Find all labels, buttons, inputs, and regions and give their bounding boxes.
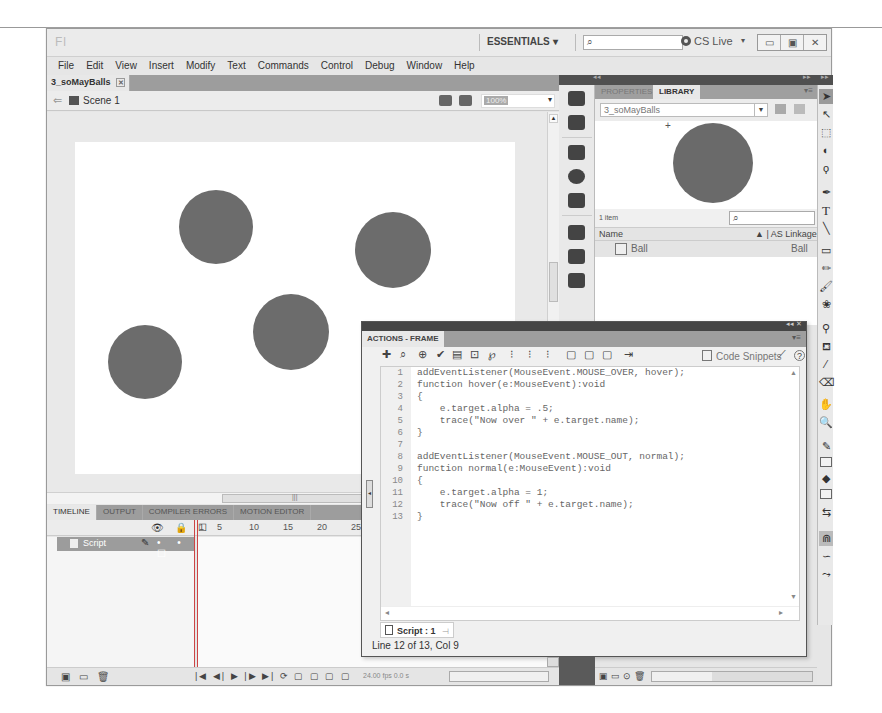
panel-horizontal-scrollbar[interactable] <box>651 671 813 682</box>
playback-controls[interactable]: |◀ ◀| ▶ |▶ ▶| ⟳ ▢ ▢ ▢ ▢ <box>195 671 352 681</box>
library-search-input[interactable]: ⌕ <box>729 211 815 225</box>
document-tab[interactable]: 3_soMayBalls ✕ <box>47 75 130 91</box>
deco-tool[interactable]: ❀ <box>819 297 833 312</box>
pencil-tool[interactable]: ✏ <box>819 261 833 276</box>
tab-library[interactable]: LIBRARY <box>653 85 700 99</box>
minimize-button[interactable]: ▭ <box>758 35 781 50</box>
text-tool[interactable]: T <box>819 203 833 218</box>
expand-icon[interactable]: ▸▸ <box>821 73 829 81</box>
scroll-down-icon[interactable]: ▼ <box>790 593 797 600</box>
actions-panel-titlebar[interactable]: ◂◂ ✕ <box>362 322 806 331</box>
help-icon[interactable]: ? <box>794 350 805 361</box>
info-panel-icon[interactable] <box>568 169 585 184</box>
subselection-tool[interactable]: ↖ <box>819 107 833 122</box>
pin-library-icon[interactable] <box>775 104 786 114</box>
playhead[interactable] <box>194 520 198 680</box>
code-horizontal-scrollbar[interactable]: ◂ ▸ <box>381 606 799 620</box>
menu-modify[interactable]: Modify <box>180 57 221 75</box>
bone-tool[interactable]: ⚲ <box>819 321 833 336</box>
menu-text[interactable]: Text <box>221 57 251 75</box>
ball-top-right[interactable] <box>355 212 431 288</box>
fill-color-swatch[interactable] <box>820 489 832 499</box>
collapse-close-icons[interactable]: ◂◂ ✕ <box>786 320 802 328</box>
script-editor[interactable]: 1 2 3 4 5 6 7 8 9 10 11 12 13 addEventLi… <box>380 366 800 621</box>
code-snippets-panel-icon[interactable] <box>568 273 585 288</box>
apply-block-comment-icon[interactable]: ▢ <box>566 348 576 361</box>
lasso-tool[interactable]: ϙ <box>819 161 833 176</box>
column-name[interactable]: Name <box>599 229 623 239</box>
scroll-left-icon[interactable]: ◂ <box>385 608 389 617</box>
expand-icon[interactable]: ▸▸ <box>803 73 811 81</box>
ball-center[interactable] <box>253 294 329 370</box>
apply-line-comment-icon[interactable]: ▢ <box>584 348 594 361</box>
tab-timeline[interactable]: TIMELINE <box>47 505 97 520</box>
menu-edit[interactable]: Edit <box>80 57 109 75</box>
pen-tool[interactable]: ✒ <box>819 185 833 200</box>
maximize-button[interactable]: ▣ <box>781 35 804 50</box>
collapse-selection-icon[interactable]: ⁝ <box>528 348 532 361</box>
rectangle-tool[interactable]: ▭ <box>819 243 833 258</box>
tab-actions-frame[interactable]: ACTIONS - FRAME <box>362 331 444 347</box>
menu-debug[interactable]: Debug <box>359 57 400 75</box>
library-item[interactable]: Ball Ball <box>595 241 817 257</box>
debug-options-icon[interactable]: ℘ <box>488 348 496 361</box>
pin-script-icon[interactable]: ⊣ <box>442 627 449 636</box>
script-assist-wand-icon[interactable]: ⟋ <box>778 348 786 361</box>
workspace-switcher[interactable]: ESSENTIALS ▾ <box>487 36 558 47</box>
panel-menu-icon[interactable]: ▾≡ <box>792 333 801 342</box>
menu-insert[interactable]: Insert <box>143 57 180 75</box>
show-code-hint-icon[interactable]: ⊡ <box>470 348 479 361</box>
close-icon[interactable]: ✕ <box>116 78 125 87</box>
straighten-icon[interactable]: ⤳ <box>819 567 833 582</box>
expand-all-icon[interactable]: ⁝ <box>546 348 550 361</box>
help-search-input[interactable]: ⌕ <box>583 35 683 50</box>
3d-rotation-tool[interactable]: ◐ <box>819 143 833 158</box>
collapse-icon[interactable]: ◂◂ <box>593 73 601 81</box>
script-navigator-toggle[interactable]: ◂ <box>366 480 373 508</box>
layer-buttons[interactable]: ▣ ▭ 🗑 <box>61 671 113 682</box>
close-button[interactable]: ✕ <box>804 35 826 50</box>
menu-window[interactable]: Window <box>401 57 449 75</box>
timeline-horizontal-scrollbar[interactable] <box>449 671 549 682</box>
collapse-between-braces-icon[interactable]: ⁝ <box>510 348 514 361</box>
smooth-icon[interactable]: ∽ <box>819 549 833 564</box>
cs-live-button[interactable]: CS Live <box>681 35 733 47</box>
zoom-level-select[interactable]: 100% ▾ <box>481 94 555 108</box>
hand-tool[interactable]: ✋ <box>819 397 833 412</box>
free-transform-tool[interactable]: ⬚ <box>819 125 833 140</box>
line-tool[interactable]: ╲ <box>819 221 833 236</box>
tab-motion-editor[interactable]: MOTION EDITOR <box>234 505 311 520</box>
find-icon[interactable]: ⌕ <box>400 348 406 361</box>
motion-presets-icon[interactable] <box>568 249 585 264</box>
snap-to-objects-icon[interactable]: ⋒ <box>819 531 833 546</box>
back-arrow-icon[interactable]: ⇐ <box>53 94 62 107</box>
scroll-right-icon[interactable]: ▸ <box>779 608 783 617</box>
components-panel-icon[interactable] <box>568 225 585 240</box>
brush-tool[interactable]: 🖌 <box>819 279 833 294</box>
library-document-select[interactable]: 3_soMayBalls ▼ <box>600 103 768 117</box>
stroke-color-icon[interactable]: ✎ <box>819 439 833 454</box>
panel-menu-icon[interactable]: ▾≡ <box>804 86 813 95</box>
cs-live-dropdown-icon[interactable]: ▾ <box>741 36 745 45</box>
auto-format-icon[interactable]: ▤ <box>452 348 462 361</box>
edit-scene-icon[interactable] <box>439 95 452 106</box>
insert-target-path-icon[interactable]: ⊕ <box>418 348 427 361</box>
stroke-color-swatch[interactable] <box>820 457 832 467</box>
align-panel-icon[interactable] <box>568 145 585 160</box>
swatches-panel-icon[interactable] <box>568 115 585 130</box>
paint-bucket-tool[interactable]: ⛾ <box>819 339 833 354</box>
menu-file[interactable]: File <box>52 57 80 75</box>
scroll-thumb[interactable] <box>549 262 558 302</box>
menu-view[interactable]: View <box>109 57 143 75</box>
column-as-linkage[interactable]: ▲ | AS Linkage <box>755 229 817 239</box>
layer-toggles[interactable]: • • ☐ <box>157 537 195 559</box>
tab-compiler-errors[interactable]: COMPILER ERRORS <box>143 505 234 520</box>
ball-bottom-left[interactable] <box>108 325 182 399</box>
add-statement-icon[interactable]: ✚ <box>382 348 391 361</box>
scroll-up-icon[interactable]: ▲ <box>790 369 797 376</box>
check-syntax-icon[interactable]: ✔ <box>436 348 445 361</box>
layer-row-script[interactable]: Script ✎ • • ☐ <box>57 537 195 551</box>
dock-grip[interactable] <box>547 657 559 667</box>
swap-colors-icon[interactable]: ⇆ <box>819 505 833 520</box>
new-library-panel-icon[interactable] <box>794 104 805 114</box>
